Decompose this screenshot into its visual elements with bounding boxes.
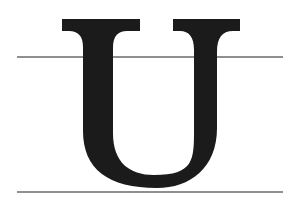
lower-guide-line [17,191,283,193]
letter-u-path [62,19,240,188]
letter-u-glyph [0,0,294,201]
letter-specimen-canvas [0,0,294,201]
glyph-layer [0,0,294,201]
